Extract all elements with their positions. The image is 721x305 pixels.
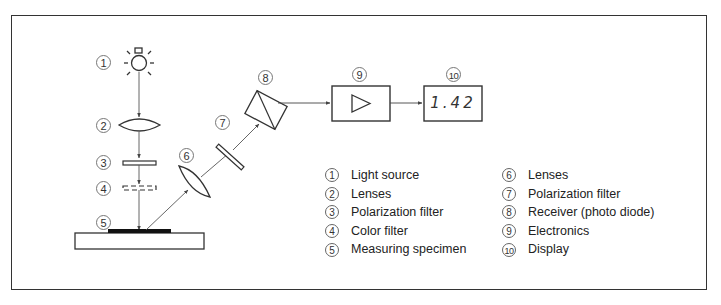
specimen-base: [75, 233, 204, 249]
legend-right: 6 Lenses 7 Polarization filter 8 Receive…: [502, 166, 654, 259]
callout-9: 9: [352, 67, 367, 82]
legend-item: 9 Electronics: [502, 222, 654, 241]
legend-item: 1 Light source: [325, 166, 466, 185]
beam-reflected-3: [233, 124, 259, 150]
legend-number: 3: [325, 205, 339, 219]
legend-text: Electronics: [528, 222, 589, 241]
callout-1: 1: [96, 55, 111, 70]
polarization-filter-1: [123, 161, 156, 165]
display-readout: 1.42: [424, 86, 482, 121]
lens-2: [179, 166, 210, 197]
legend-number: 10: [502, 243, 516, 257]
legend-item: 4 Color filter: [325, 222, 466, 241]
legend-text: Measuring specimen: [351, 240, 466, 259]
color-filter: [123, 186, 156, 190]
legend-number: 7: [502, 187, 516, 201]
receiver-prism: [245, 91, 287, 130]
legend-item: 5 Measuring specimen: [325, 240, 466, 259]
legend-number: 5: [325, 243, 339, 257]
optical-diagram: [0, 0, 721, 305]
legend-text: Lenses: [528, 166, 568, 185]
callout-4: 4: [96, 181, 111, 196]
legend-number: 4: [325, 224, 339, 238]
legend-left: 1 Light source 2 Lenses 3 Polarization f…: [325, 166, 466, 259]
legend-text: Polarization filter: [351, 203, 443, 222]
callout-8: 8: [258, 70, 273, 85]
callout-6: 6: [179, 148, 194, 163]
beam-reflected-2: [201, 153, 229, 177]
legend-number: 1: [325, 168, 339, 182]
legend-text: Display: [528, 240, 569, 259]
measuring-specimen: [108, 229, 171, 233]
beam-reflected-1: [146, 190, 188, 230]
lightbulb-icon: [124, 48, 154, 75]
legend-number: 9: [502, 224, 516, 238]
legend-item: 2 Lenses: [325, 185, 466, 204]
legend-text: Color filter: [351, 222, 408, 241]
legend-text: Light source: [351, 166, 419, 185]
callout-5: 5: [96, 215, 111, 230]
legend-item: 3 Polarization filter: [325, 203, 466, 222]
legend-text: Lenses: [351, 185, 391, 204]
callout-7: 7: [215, 115, 230, 130]
legend-number: 6: [502, 168, 516, 182]
lens-1: [119, 119, 160, 131]
callout-10: 10: [446, 67, 461, 82]
polarization-filter-2: [216, 144, 244, 170]
callout-3: 3: [96, 155, 111, 170]
legend-number: 2: [325, 187, 339, 201]
legend-item: 7 Polarization filter: [502, 185, 654, 204]
callout-2: 2: [96, 118, 111, 133]
legend-item: 8 Receiver (photo diode): [502, 203, 654, 222]
legend-item: 10 Display: [502, 240, 654, 259]
legend-text: Polarization filter: [528, 185, 620, 204]
legend-text: Receiver (photo diode): [528, 203, 654, 222]
legend-item: 6 Lenses: [502, 166, 654, 185]
legend-number: 8: [502, 205, 516, 219]
